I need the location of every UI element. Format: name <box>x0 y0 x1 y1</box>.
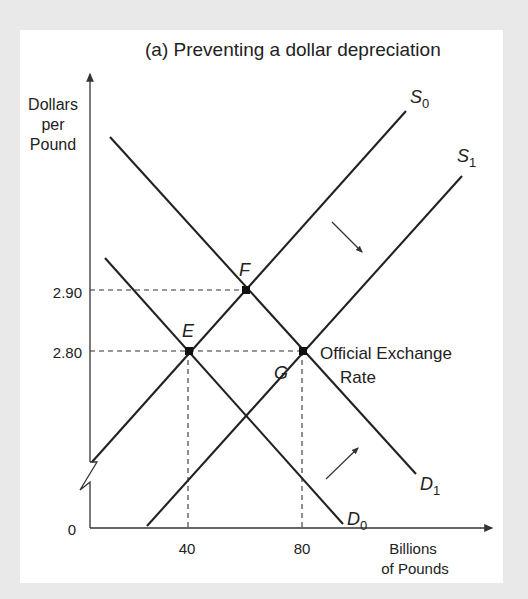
point-official <box>299 347 307 355</box>
origin-label: 0 <box>68 521 76 538</box>
demand-curve-d1 <box>110 137 416 474</box>
axis-break-icon <box>80 462 97 528</box>
label-g: G <box>274 363 288 383</box>
demand-curve-d0 <box>105 258 343 524</box>
exchange-rate-chart: (a) Preventing a dollar depreciation Dol… <box>0 0 528 599</box>
y-axis-label-3: Pound <box>30 136 76 153</box>
label-s0: S0 <box>410 87 429 111</box>
label-e: E <box>182 321 195 341</box>
label-s1: S1 <box>457 146 476 170</box>
y-axis-label-2: per <box>41 116 65 133</box>
chart-title: (a) Preventing a dollar depreciation <box>145 39 441 60</box>
official-rate-label-2: Rate <box>340 368 376 387</box>
label-d0: D0 <box>347 509 367 533</box>
label-f: F <box>239 260 251 280</box>
x-axis-label-1: Billions <box>389 540 437 557</box>
point-e <box>185 347 193 355</box>
label-d1: D1 <box>420 474 440 498</box>
x-tick-80: 80 <box>294 540 311 557</box>
y-axis-label-1: Dollars <box>28 96 78 113</box>
official-rate-label-1: Official Exchange <box>320 344 452 363</box>
y-tick-2-80: 2.80 <box>53 344 82 361</box>
supply-shift-arrow-icon <box>332 222 362 252</box>
x-axis-label-2: of Pounds <box>381 560 449 577</box>
y-tick-2-90: 2.90 <box>53 284 82 301</box>
demand-shift-arrow-icon <box>326 448 358 479</box>
guide-lines <box>90 290 304 528</box>
point-f <box>242 286 250 294</box>
x-tick-40: 40 <box>179 540 196 557</box>
